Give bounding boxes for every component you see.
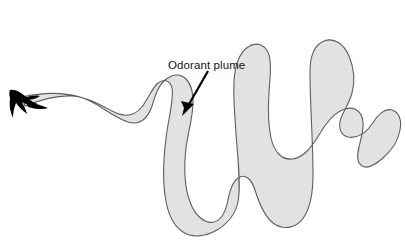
odorant-plume-label: Odorant plume: [168, 59, 245, 71]
odorant-plume-diagram: Odorant plume: [0, 0, 405, 250]
figure-canvas: Odorant plume: [0, 0, 405, 250]
